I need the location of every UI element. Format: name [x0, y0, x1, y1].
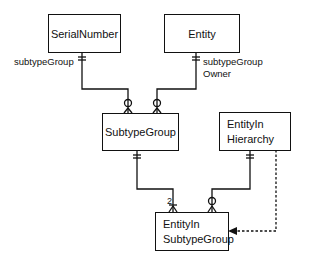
entity-label: SerialNumber: [51, 28, 118, 40]
role-label-subtypegroup-owner: subtypeGroup Owner: [203, 56, 263, 80]
role-label-line2: Owner: [203, 68, 263, 80]
role-label-subtypegroup: subtypeGroup: [14, 56, 74, 68]
entity-label-line2: Hierarchy: [227, 132, 274, 147]
entity-box-entityinsubtypegroup[interactable]: EntityIn SubtypeGroup: [155, 212, 229, 251]
entity-box-entity[interactable]: Entity: [164, 14, 240, 53]
entity-label-line2: SubtypeGroup: [163, 232, 234, 247]
entity-box-serialnumber[interactable]: SerialNumber: [48, 14, 121, 53]
role-label-line1: subtypeGroup: [203, 56, 263, 68]
entity-label-line1: EntityIn: [163, 217, 234, 232]
entity-label: Entity: [188, 28, 216, 40]
entity-box-entityinhierarchy[interactable]: EntityIn Hierarchy: [219, 112, 291, 151]
entity-label-line1: EntityIn: [227, 117, 274, 132]
cardinality-label: 2: [167, 195, 172, 207]
entity-label: SubtypeGroup: [105, 126, 176, 138]
entity-box-subtypegroup[interactable]: SubtypeGroup: [102, 113, 179, 151]
